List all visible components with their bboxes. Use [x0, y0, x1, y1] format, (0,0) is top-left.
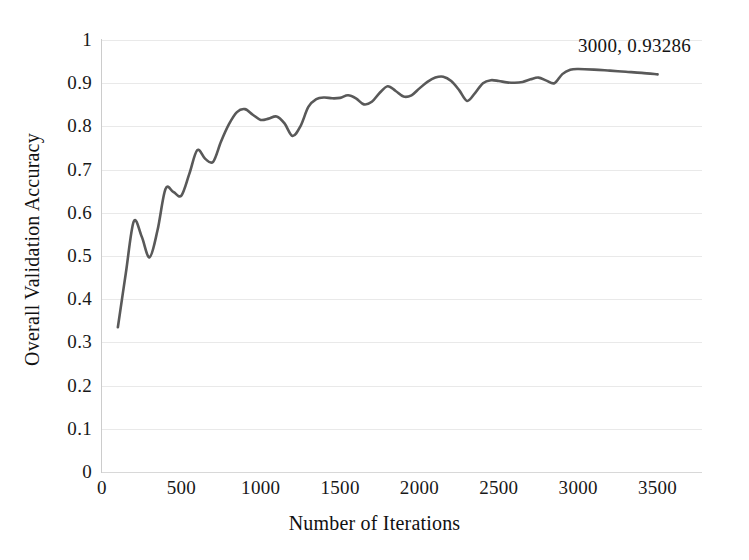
x-tick-label-500: 500 [146, 478, 216, 498]
x-axis-title: Number of Iterations [0, 512, 749, 535]
y-axis-line [101, 39, 102, 473]
y-tick-label-0.9: 0.9 [40, 73, 92, 92]
y-tick-label-0.7: 0.7 [40, 160, 92, 179]
x-tick-label-3000: 3000 [543, 478, 613, 498]
y-tick-label-0.4: 0.4 [40, 289, 92, 308]
gridline-y-0.9 [102, 83, 702, 84]
gridline-y-0.7 [102, 170, 702, 171]
y-tick-label-0.5: 0.5 [40, 246, 92, 265]
x-tick-label-3500: 3500 [623, 478, 693, 498]
gridline-y-0 [102, 472, 702, 473]
gridline-y-0.3 [102, 342, 702, 343]
y-tick-label-0.6: 0.6 [40, 203, 92, 222]
chart-figure: 00.10.20.30.40.50.60.70.80.91 0500100015… [0, 0, 749, 560]
plot-area [102, 40, 702, 472]
gridline-y-0.8 [102, 126, 702, 127]
gridline-y-0.1 [102, 429, 702, 430]
x-tick-label-2500: 2500 [464, 478, 534, 498]
y-tick-label-0.2: 0.2 [40, 376, 92, 395]
y-tick-label-0.3: 0.3 [40, 332, 92, 351]
gridline-y-0.6 [102, 213, 702, 214]
x-tick-label-1500: 1500 [305, 478, 375, 498]
series-endpoint-annotation: 3000, 0.93286 [578, 36, 691, 56]
y-tick-label-1: 1 [40, 30, 92, 49]
gridline-y-0.2 [102, 386, 702, 387]
gridline-y-0.5 [102, 256, 702, 257]
y-tick-label-0.8: 0.8 [40, 116, 92, 135]
y-tick-label-0.1: 0.1 [40, 419, 92, 438]
y-axis-title: Overall Validation Accuracy [21, 50, 44, 450]
x-tick-label-1000: 1000 [226, 478, 296, 498]
gridline-y-0.4 [102, 299, 702, 300]
x-tick-label-2000: 2000 [384, 478, 454, 498]
x-tick-label-0: 0 [67, 478, 137, 498]
